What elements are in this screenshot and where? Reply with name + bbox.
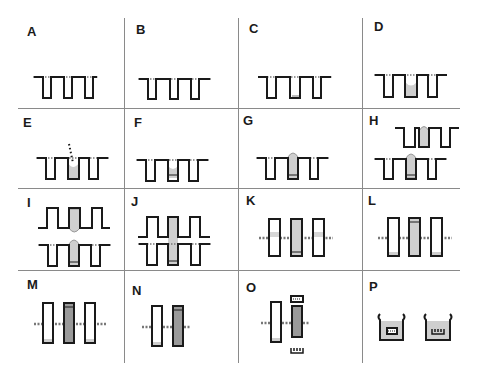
panel-p-art bbox=[379, 314, 452, 340]
figure: A B C D E F G H I J K L M N O P bbox=[0, 0, 479, 378]
panel-k-art bbox=[259, 219, 333, 256]
panel-j-art bbox=[138, 217, 211, 265]
panel-i-art bbox=[38, 208, 111, 266]
panel-l-art bbox=[378, 218, 452, 256]
panel-g-art bbox=[256, 153, 329, 179]
panel-h-art bbox=[374, 127, 459, 180]
panel-b-art bbox=[138, 79, 211, 99]
panel-o-art bbox=[261, 296, 309, 353]
diagram-artwork bbox=[0, 0, 479, 378]
panel-n-art bbox=[142, 306, 190, 346]
panel-e-art bbox=[36, 144, 109, 179]
panel-m-art bbox=[34, 303, 106, 343]
panel-c-art bbox=[258, 77, 332, 98]
panel-f-art bbox=[136, 160, 209, 181]
panel-d-art bbox=[374, 75, 447, 97]
panel-a-art bbox=[33, 77, 98, 98]
